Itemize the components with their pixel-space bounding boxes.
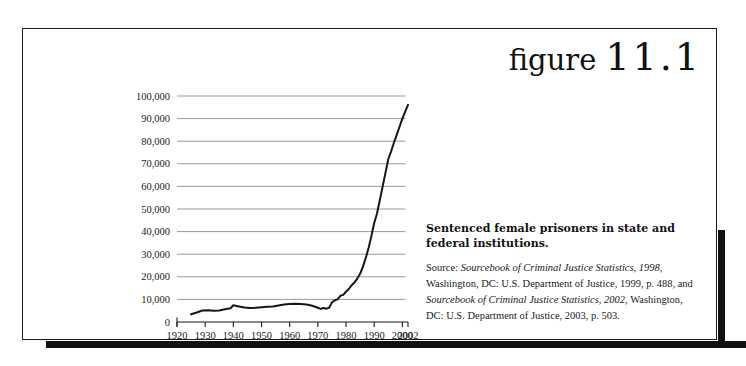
y-tick-label: 70,000: [141, 158, 170, 169]
figure-shadow-bottom: [46, 341, 746, 348]
figure-label-word: figure: [509, 43, 597, 77]
chart-plot-area: 010,00020,00030,00040,00050,00060,00070,…: [111, 67, 421, 342]
x-tick-label: 1930: [195, 330, 216, 341]
x-tick-label: 1940: [223, 330, 244, 341]
x-tick-label: 2002: [398, 330, 419, 341]
chart-gridlines: [177, 96, 405, 299]
chart-x-axis: [177, 318, 408, 328]
figure-label-number: 11.1: [605, 35, 702, 79]
x-tick-label: 1970: [307, 330, 328, 341]
y-tick-label: 100,000: [136, 91, 170, 102]
figure-caption: Sentenced female prisoners in state and …: [426, 221, 696, 324]
caption-source-title-1: Sourcebook of Criminal Justice Statistic…: [461, 262, 660, 273]
x-tick-label: 1960: [279, 330, 300, 341]
y-tick-label: 40,000: [141, 226, 170, 237]
chart-data-line: [191, 105, 408, 315]
figure-container: figure 11.1 010,00020,00030,00040,00050,…: [22, 28, 717, 340]
y-tick-label: 60,000: [141, 181, 170, 192]
y-tick-label: 20,000: [141, 271, 170, 282]
caption-title: Sentenced female prisoners in state and …: [426, 221, 696, 251]
caption-source: Source: Sourcebook of Criminal Justice S…: [426, 260, 696, 324]
y-tick-label: 90,000: [141, 113, 170, 124]
x-tick-label: 1950: [251, 330, 272, 341]
line-chart-svg: 010,00020,00030,00040,00050,00060,00070,…: [111, 67, 421, 342]
y-tick-label: 10,000: [141, 294, 170, 305]
figure-shadow-right: [718, 230, 725, 348]
y-tick-label: 0: [165, 317, 170, 328]
x-tick-label: 1990: [364, 330, 385, 341]
y-tick-label: 30,000: [141, 249, 170, 260]
chart-x-axis-labels: 1920193019401950196019701980199020002002: [167, 330, 419, 341]
y-tick-label: 80,000: [141, 136, 170, 147]
x-tick-label: 1980: [336, 330, 357, 341]
caption-source-title-2: Sourcebook of Criminal Justice Statistic…: [426, 294, 625, 305]
chart-y-axis-labels: 010,00020,00030,00040,00050,00060,00070,…: [136, 91, 170, 328]
x-tick-label: 1920: [167, 330, 188, 341]
y-tick-label: 50,000: [141, 204, 170, 215]
figure-label: figure 11.1: [509, 35, 702, 79]
caption-source-label: Source:: [426, 262, 458, 273]
